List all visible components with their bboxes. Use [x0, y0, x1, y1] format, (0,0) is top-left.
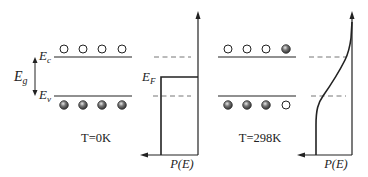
- conduction-band-label: Ec: [38, 48, 51, 65]
- empty-state-icon: [98, 45, 106, 53]
- arrow-up-icon: [196, 11, 201, 19]
- band-gap-arrow: [33, 57, 38, 96]
- fermi-dirac-diagram: Eg Ec Ev T=0K EF P(E): [0, 0, 368, 177]
- electron-icon: [118, 101, 127, 110]
- band-diagram-0k: Eg Ec Ev T=0K: [13, 45, 132, 145]
- electron-icon: [282, 45, 291, 54]
- hole-icon: [282, 101, 290, 109]
- temperature-label-0k: T=0K: [81, 131, 111, 145]
- band-diagram-298k: T=298K: [218, 45, 296, 145]
- empty-state-icon: [224, 45, 232, 53]
- valence-electrons: [60, 101, 127, 110]
- electron-icon: [224, 101, 233, 110]
- empty-state-icon: [60, 45, 68, 53]
- electron-icon: [60, 101, 69, 110]
- electron-icon: [243, 101, 252, 110]
- fermi-level-label: EF: [141, 69, 156, 86]
- conduction-holes: [60, 45, 126, 53]
- electron-icon: [262, 101, 271, 110]
- x-axis-label-right: P(E): [323, 157, 348, 171]
- arrow-left-icon: [297, 153, 305, 158]
- arrow-left-icon: [140, 153, 148, 158]
- conduction-states: [224, 45, 290, 54]
- arrow-up-icon: [350, 11, 355, 19]
- band-gap-label: Eg: [13, 69, 28, 86]
- electron-icon: [98, 101, 107, 110]
- occupation-plot-298k: P(E): [297, 11, 355, 171]
- empty-state-icon: [79, 45, 87, 53]
- temperature-label-298k: T=298K: [239, 131, 281, 145]
- valence-states: [224, 101, 290, 110]
- empty-state-icon: [243, 45, 251, 53]
- x-axis-label-left: P(E): [169, 157, 194, 171]
- empty-state-icon: [262, 45, 270, 53]
- fermi-dirac-curve: [316, 22, 352, 155]
- step-function-curve: [161, 77, 198, 155]
- occupation-plot-0k: EF P(E): [140, 11, 201, 171]
- empty-state-icon: [118, 45, 126, 53]
- electron-icon: [79, 101, 88, 110]
- valence-band-label: Ev: [38, 87, 51, 104]
